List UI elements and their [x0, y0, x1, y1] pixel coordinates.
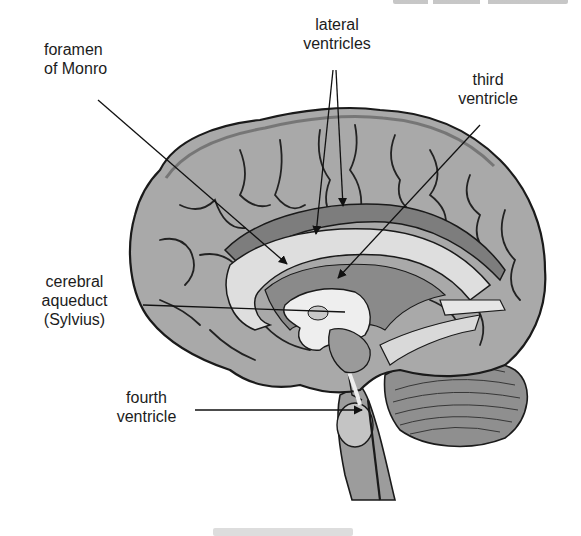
label-fourth-ventricle: fourth ventricle	[104, 388, 189, 426]
cropped-caption-text	[213, 528, 353, 536]
label-cerebral-aqueduct: cerebral aqueduct (Sylvius)	[32, 272, 117, 329]
label-foramen-of-monro: foramen of Monro	[44, 40, 124, 78]
label-third-ventricle: third ventricle	[448, 70, 528, 108]
label-lateral-ventricles: lateral ventricles	[292, 15, 382, 53]
